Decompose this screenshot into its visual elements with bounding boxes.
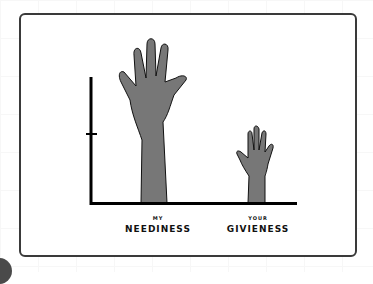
bar-hand-neediness <box>119 39 186 203</box>
category-label-1-line2: NEEDINESS <box>113 224 203 234</box>
bar-hand-giviness <box>237 126 273 203</box>
category-label-2-line2: GIVIENESS <box>211 224 305 234</box>
category-label-2-line1: YOUR <box>238 215 278 221</box>
category-label-1-line1: MY <box>138 215 178 221</box>
